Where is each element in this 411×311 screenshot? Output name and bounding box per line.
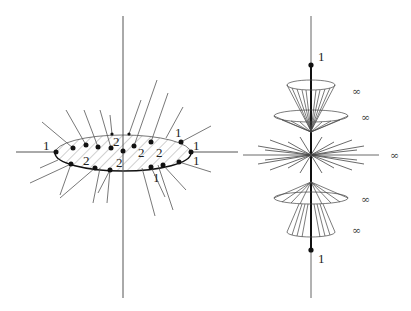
label-interior-b: 2: [83, 153, 90, 168]
left-figure: 1 1 1 1 1 2 2 2 2 2: [16, 16, 238, 298]
label-left-edge: 1: [43, 138, 50, 153]
label-bottom-point: 1: [318, 251, 325, 266]
label-inf-top-lower: ∞: [361, 111, 370, 124]
label-interior-c: 2: [116, 155, 123, 170]
label-right-1: 1: [193, 138, 200, 153]
label-bottom-right: 1: [153, 170, 160, 185]
label-interior-e: 2: [156, 145, 163, 160]
top-point: [308, 62, 313, 67]
label-top-right: 1: [175, 125, 182, 140]
diagram-canvas: 1 1 1 1 1 2 2 2 2 2: [0, 0, 411, 311]
label-top-point: 1: [318, 49, 325, 64]
label-inf-bottom-lower: ∞: [352, 224, 361, 237]
label-interior-a: 2: [113, 134, 120, 149]
bottom-point: [308, 247, 313, 252]
right-figure: 1 1 ∞ ∞ ∞ ∞ ∞: [243, 16, 399, 298]
label-inf-star: ∞: [390, 149, 399, 162]
label-inf-bottom-upper: ∞: [361, 193, 370, 206]
label-right-2: 1: [193, 153, 200, 168]
label-interior-d: 2: [138, 145, 145, 160]
label-inf-top-upper: ∞: [352, 85, 361, 98]
